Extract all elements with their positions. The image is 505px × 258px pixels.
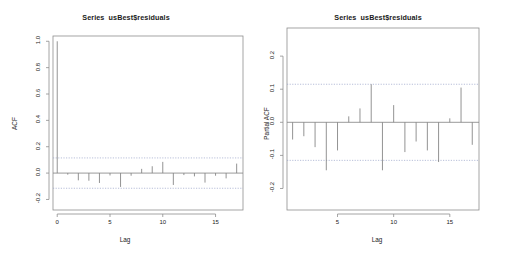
spike-group — [293, 84, 473, 170]
x-tick-label: 10 — [153, 219, 173, 225]
y-tick-label: 0.0 — [269, 110, 275, 132]
x-tick-label: 5 — [100, 219, 120, 225]
acf-panel: Series usBest$residuals ACF Lag -0.20.00… — [0, 0, 252, 258]
y-tick-label: -0.2 — [35, 187, 41, 209]
y-tick-label: 0.2 — [35, 135, 41, 157]
pacf-plot-area — [252, 0, 504, 258]
y-tick-label: 0.4 — [35, 108, 41, 130]
x-tick-label: 10 — [384, 219, 404, 225]
y-tick-label: 1.0 — [35, 29, 41, 51]
x-tick-label: 15 — [206, 219, 226, 225]
spike-group — [57, 41, 236, 187]
x-tick-label: 15 — [440, 219, 460, 225]
pacf-panel: Series usBest$residuals Partial ACF Lag … — [252, 0, 504, 258]
y-tick-label: 0.6 — [35, 82, 41, 104]
y-tick-label: -0.1 — [269, 143, 275, 165]
plot-box — [53, 36, 243, 210]
x-tick-label: 5 — [328, 219, 348, 225]
x-tick-label: 0 — [47, 219, 67, 225]
y-tick-label: -0.2 — [269, 176, 275, 198]
y-tick-label: 0.8 — [35, 56, 41, 78]
y-tick-label: 0.1 — [269, 77, 275, 99]
y-tick-label: 0.2 — [269, 44, 275, 66]
y-tick-label: 0.0 — [35, 161, 41, 183]
